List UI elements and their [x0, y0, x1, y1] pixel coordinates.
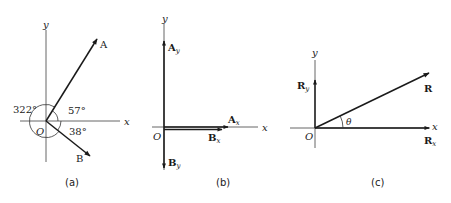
y-axis-label: y	[161, 13, 168, 24]
x-axis-label: x	[124, 116, 130, 127]
vector-diagram: y x O A B 57° 38° 322° (a) y x O Ay By A…	[0, 0, 451, 203]
arc-38	[58, 121, 61, 130]
angle-38-label: 38°	[69, 126, 87, 137]
caption-b: (b)	[216, 177, 230, 188]
arc-theta	[340, 116, 343, 128]
vector-R-label: R	[424, 83, 433, 94]
component-Ay-label: Ay	[167, 42, 181, 55]
origin-label: O	[153, 131, 161, 142]
component-Bx-label: Bx	[208, 132, 220, 145]
vector-R	[315, 73, 429, 128]
angle-57-label: 57°	[68, 105, 86, 116]
vector-B-label: B	[76, 153, 83, 164]
caption-c: (c)	[371, 177, 384, 188]
caption-a: (a)	[65, 177, 79, 188]
x-axis-label: x	[262, 122, 268, 133]
x-axis-label: x	[432, 121, 438, 132]
component-By-label: By	[168, 157, 181, 170]
y-axis-label: y	[42, 19, 49, 30]
component-Ry-label: Ry	[297, 80, 310, 93]
y-axis-label: y	[311, 47, 318, 58]
panel-b: y x O Ay By Ax Bx (b)	[152, 13, 268, 188]
theta-label: θ	[346, 117, 352, 127]
vector-A-label: A	[99, 39, 108, 50]
panel-c: y x O θ R Ry Rx (c)	[290, 47, 438, 188]
panel-a: y x O A B 57° 38° 322° (a)	[13, 19, 130, 188]
angle-322-label: 322°	[13, 104, 37, 115]
component-Ax-label: Ax	[227, 114, 240, 127]
component-Rx-label: Rx	[424, 135, 436, 148]
origin-label: O	[305, 131, 313, 142]
arc-57	[53, 111, 59, 121]
